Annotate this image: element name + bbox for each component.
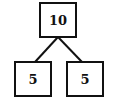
part-box-right: 5 bbox=[66, 61, 104, 97]
part-box-left: 5 bbox=[14, 61, 52, 97]
part-value-left: 5 bbox=[28, 72, 37, 87]
connector-left bbox=[35, 37, 58, 62]
part-value-right: 5 bbox=[80, 72, 89, 87]
connector-right bbox=[58, 37, 82, 62]
whole-value: 10 bbox=[49, 13, 67, 28]
whole-box: 10 bbox=[39, 2, 77, 38]
